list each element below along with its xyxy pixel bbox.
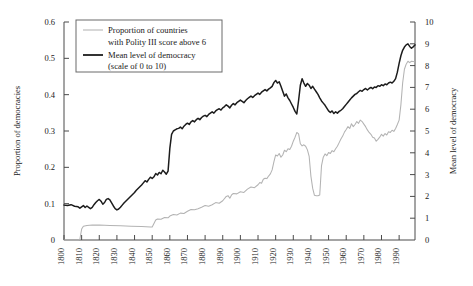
x-tick-label: 1940 bbox=[303, 248, 313, 265]
x-tick-label: 1810 bbox=[74, 248, 84, 265]
x-tick-label: 1870 bbox=[179, 248, 189, 265]
x-tick-label: 1980 bbox=[373, 248, 383, 265]
right-tick-label: 0 bbox=[425, 235, 429, 245]
legend-label-light-line-2: with Polity III score above 6 bbox=[108, 37, 207, 47]
x-tick-label: 1880 bbox=[197, 248, 207, 265]
chart-background bbox=[0, 0, 473, 286]
left-tick-label: 0.3 bbox=[44, 126, 55, 136]
right-axis-title: Mean level of democracy bbox=[448, 87, 458, 174]
left-tick-label: 0.6 bbox=[44, 17, 55, 27]
left-tick-label: 0.2 bbox=[44, 162, 55, 172]
right-tick-label: 6 bbox=[425, 104, 429, 114]
right-tick-label: 3 bbox=[425, 170, 429, 180]
x-tick-label: 1830 bbox=[109, 248, 119, 265]
left-tick-label: 0.4 bbox=[44, 90, 55, 100]
x-tick-label: 1930 bbox=[285, 248, 295, 265]
x-tick-label: 1890 bbox=[215, 248, 225, 265]
x-tick-label: 1850 bbox=[144, 248, 154, 265]
legend-label-dark-line-2: (scale of 0 to 10) bbox=[108, 61, 166, 71]
left-axis-title: Proportion of democracies bbox=[12, 86, 22, 176]
legend-label-dark-line-1: Mean level of democracy bbox=[108, 50, 196, 60]
right-tick-label: 8 bbox=[425, 61, 429, 71]
right-tick-label: 10 bbox=[425, 17, 434, 27]
x-tick-label: 1910 bbox=[250, 248, 260, 265]
left-tick-label: 0 bbox=[51, 235, 55, 245]
x-tick-label: 1970 bbox=[356, 248, 366, 265]
legend-label-light-line-1: Proportion of countries bbox=[108, 25, 188, 35]
chart-legend: Proportion of countries with Polity III … bbox=[76, 20, 222, 72]
x-tick-label: 1960 bbox=[338, 248, 348, 265]
x-tick-label: 1860 bbox=[162, 248, 172, 265]
x-tick-label: 1900 bbox=[232, 248, 242, 265]
x-tick-label: 1820 bbox=[91, 248, 101, 265]
x-tick-label: 1800 bbox=[56, 248, 66, 265]
right-tick-label: 9 bbox=[425, 39, 429, 49]
chart-container: 00.10.20.30.40.50.6 012345678910 1800181… bbox=[0, 0, 473, 286]
right-tick-label: 7 bbox=[425, 82, 429, 92]
right-tick-label: 5 bbox=[425, 126, 429, 136]
x-tick-label: 1840 bbox=[127, 248, 137, 265]
right-tick-label: 1 bbox=[425, 213, 429, 223]
left-tick-label: 0.5 bbox=[44, 53, 55, 63]
left-tick-label: 0.1 bbox=[44, 199, 55, 209]
x-tick-label: 1950 bbox=[321, 248, 331, 265]
right-tick-label: 2 bbox=[425, 191, 429, 201]
x-tick-label: 1920 bbox=[268, 248, 278, 265]
x-tick-label: 1990 bbox=[391, 248, 401, 265]
democracy-trend-chart: 00.10.20.30.40.50.6 012345678910 1800181… bbox=[0, 0, 473, 286]
